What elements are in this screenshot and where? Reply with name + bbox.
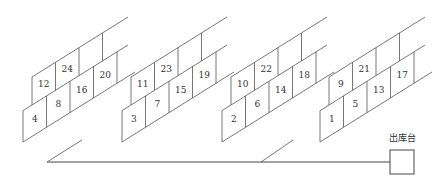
- slot-label: 11: [137, 79, 148, 89]
- slot-label: 24: [62, 64, 74, 74]
- slot-label: 20: [100, 70, 112, 80]
- slot-label: 3: [131, 114, 137, 124]
- slot-label: 10: [237, 79, 249, 89]
- slot-label: 19: [199, 70, 211, 80]
- slot-label: 14: [275, 85, 287, 95]
- diagram-canvas: 122448162011233715191022261418921151317: [0, 0, 443, 192]
- shelf-middle-line: [320, 45, 425, 111]
- warehouse-diagram: 122448162011233715191022261418921151317 …: [0, 0, 443, 192]
- slot-label: 13: [373, 85, 385, 95]
- conveyor-branch-middle: [261, 140, 293, 162]
- output-station-label: 出库台: [389, 131, 416, 144]
- slot-label: 21: [359, 64, 370, 74]
- slot-label: 12: [38, 79, 49, 89]
- slot-label: 17: [397, 70, 409, 80]
- shelf-upper-top-line: [231, 17, 327, 77]
- slot-label: 6: [254, 99, 260, 109]
- slot-label: 4: [32, 114, 38, 124]
- slot-label: 7: [154, 99, 160, 109]
- slot-label: 18: [299, 70, 311, 80]
- slot-label: 5: [352, 99, 358, 109]
- slot-label: 9: [338, 79, 344, 89]
- slot-label: 1: [329, 114, 335, 124]
- slot-label: 23: [161, 64, 173, 74]
- shelf-upper-top-line: [329, 17, 425, 77]
- shelf-upper-top-line: [131, 17, 227, 77]
- conveyor-branch-left: [47, 140, 82, 162]
- slot-label: 2: [231, 114, 237, 124]
- slot-label: 8: [55, 99, 61, 109]
- output-station-box: [390, 150, 414, 174]
- slot-label: 15: [175, 85, 187, 95]
- slot-label: 16: [76, 85, 88, 95]
- shelf-upper-top-line: [32, 17, 128, 77]
- slot-label: 22: [261, 64, 272, 74]
